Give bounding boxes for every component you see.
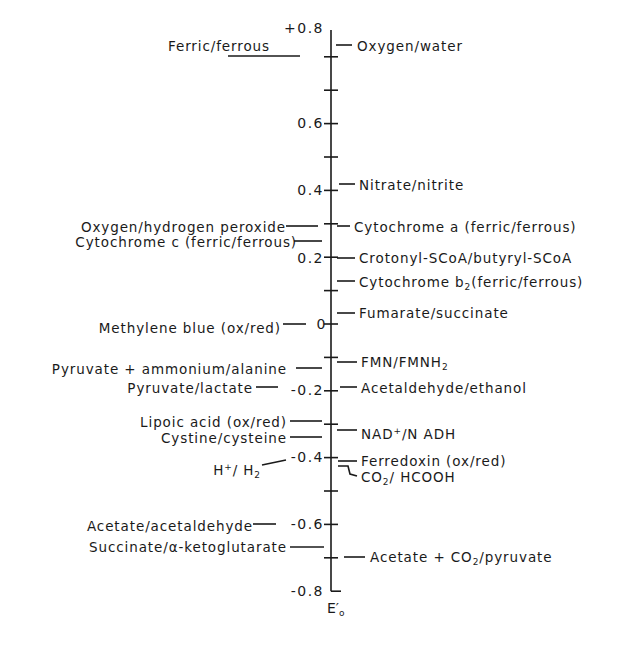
couple-cytochrome-a: Cytochrome a (ferric/ferrous) xyxy=(354,219,577,235)
tick-label-minus-0-6: -0.6 xyxy=(262,516,324,532)
redox-potential-diagram: +0.8 0.6 0.4 0.2 0 -0.2 -0.4 -0.6 -0.8 E… xyxy=(0,0,639,645)
couple-nitrate-nitrite: Nitrate/nitrite xyxy=(359,177,464,193)
couple-lipoic-acid: Lipoic acid (ox/red) xyxy=(140,414,287,430)
fmn-sub: 2 xyxy=(442,362,449,372)
cyt-b-rest: (ferric/ferrous) xyxy=(471,274,583,290)
couple-h-h2: H+/ H2 xyxy=(213,459,261,483)
couple-ferredoxin: Ferredoxin (ox/red) xyxy=(361,453,506,469)
nad-text: NAD xyxy=(361,426,393,442)
tick-label-minus-0-2: -0.2 xyxy=(262,382,324,398)
tick-label-minus-0-4: -0.4 xyxy=(262,449,324,465)
couple-co2-hcooh: CO2/ HCOOH xyxy=(361,469,456,490)
h2-sub: 2 xyxy=(254,470,261,480)
couple-crotonyl-butyryl: Crotonyl-SCoA/butyryl-SCoA xyxy=(359,250,572,266)
couple-acetate-acetaldehyde: Acetate/acetaldehyde xyxy=(87,518,253,534)
axis-title-main: E xyxy=(327,600,336,616)
co2-text: CO xyxy=(361,469,383,485)
couple-cystine-cysteine: Cystine/cysteine xyxy=(161,430,287,446)
couple-fumarate-succinate: Fumarate/succinate xyxy=(359,305,509,321)
couple-acetaldehyde-ethanol: Acetaldehyde/ethanol xyxy=(361,380,527,396)
tick-label-minus-0-8: -0.8 xyxy=(262,583,324,599)
tick-label-0-4: 0.4 xyxy=(272,182,324,198)
couple-cytochrome-b2: Cytochrome b2(ferric/ferrous) xyxy=(359,274,583,295)
couple-ferric-ferrous: Ferric/ferrous xyxy=(168,38,270,54)
couple-methylene-blue: Methylene blue (ox/red) xyxy=(99,320,281,336)
couple-oxygen-water: Oxygen/water xyxy=(357,38,463,54)
tick-label-0-2: 0.2 xyxy=(272,250,324,266)
tick-label-plus-0-8: +0.8 xyxy=(272,20,324,36)
nad-sup: + xyxy=(393,426,401,436)
leader-line-co2-hcooh xyxy=(338,466,357,476)
couple-nad-nadh: NAD+/N ADH xyxy=(361,423,456,442)
nadh-text: /N ADH xyxy=(402,426,456,442)
h2-text: / H xyxy=(233,462,255,478)
axis-title-sub: o xyxy=(339,608,345,618)
acetate-co2-text: Acetate + CO xyxy=(370,549,473,565)
h-text: H xyxy=(213,462,224,478)
couple-succinate-ketoglutarate: Succinate/α-ketoglutarate xyxy=(89,539,287,555)
fmn-text: FMN/FMNH xyxy=(361,354,442,370)
co2-sub: 2 xyxy=(383,477,390,487)
couple-cytochrome-c: Cytochrome c (ferric/ferrous) xyxy=(75,234,297,250)
couple-pyruvate-lactate: Pyruvate/lactate xyxy=(127,380,253,396)
couple-pyruvate-ammonium-alanine: Pyruvate + ammonium/alanine xyxy=(52,361,287,377)
hcooh-text: / HCOOH xyxy=(390,469,456,485)
couple-acetate-co2-pyruvate: Acetate + CO2/pyruvate xyxy=(370,549,552,570)
couple-fmn-fmnh2: FMN/FMNH2 xyxy=(361,354,449,375)
h-plus-sup: + xyxy=(224,462,232,472)
tick-label-0-6: 0.6 xyxy=(272,115,324,131)
couple-oxygen-hydrogen-peroxide: Oxygen/hydrogen peroxide xyxy=(81,219,286,235)
pyruvate-text: /pyruvate xyxy=(479,549,552,565)
axis-title: E′o xyxy=(327,600,345,618)
cyt-b-text: Cytochrome b xyxy=(359,274,465,290)
